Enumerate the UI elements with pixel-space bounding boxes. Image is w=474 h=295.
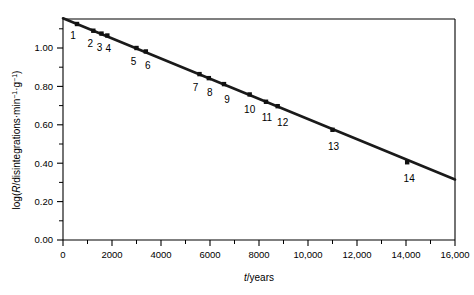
- y-tick-label: 0.60: [35, 119, 54, 130]
- data-series: 1234567891011121314: [63, 18, 455, 184]
- data-point: [99, 31, 103, 35]
- data-point-label: 11: [262, 112, 273, 123]
- y-axis-title-mid: ·g: [11, 82, 22, 91]
- y-axis-title-prefix: log(: [11, 192, 22, 209]
- data-point-label: 14: [404, 173, 416, 184]
- y-axis-title: log(R/disintegrations·min−1·g−1): [11, 71, 23, 210]
- data-point: [264, 100, 268, 104]
- data-point-label: 1: [70, 30, 76, 41]
- x-axis-major-ticks: [63, 240, 455, 246]
- data-point-label: 13: [328, 141, 340, 152]
- data-point-label: 8: [207, 87, 213, 98]
- y-axis-title-exponent-1: −1: [11, 91, 18, 99]
- data-point: [330, 128, 334, 132]
- x-tick-label: 0: [60, 249, 65, 260]
- x-tick-label: 10,000: [293, 249, 322, 260]
- x-axis-tick-labels: 0 2000 4000 6000 8000 10,000 12,000 14,0…: [60, 249, 469, 260]
- data-point-label: 12: [277, 117, 289, 128]
- plot-frame: [63, 19, 455, 240]
- y-axis-tick-labels: 0.00 0.20 0.40 0.60 0.80 1.00: [35, 42, 54, 245]
- data-point-label: 10: [244, 104, 256, 115]
- data-point: [207, 76, 211, 80]
- data-point: [75, 22, 79, 26]
- data-point: [247, 92, 251, 96]
- x-tick-label: 16,000: [440, 249, 469, 260]
- data-point: [275, 104, 279, 108]
- data-point-label: 7: [193, 82, 199, 93]
- y-axis-title-suffix: ): [11, 71, 22, 74]
- chart-figure: 0.00 0.20 0.40 0.60 0.80 1.00: [0, 0, 474, 295]
- x-axis-title-rest: /years: [247, 272, 274, 283]
- data-point-label: 5: [131, 56, 137, 67]
- x-axis-title: t/years: [244, 272, 274, 283]
- y-tick-label: 1.00: [35, 42, 54, 53]
- x-tick-label: 6000: [199, 249, 220, 260]
- x-tick-label: 2000: [101, 249, 122, 260]
- y-axis-title-exponent-2: −1: [11, 74, 18, 82]
- x-tick-label: 8000: [248, 249, 269, 260]
- data-point: [105, 33, 109, 37]
- data-point: [91, 29, 95, 33]
- data-point: [405, 160, 409, 164]
- data-point-label: 9: [224, 94, 230, 105]
- y-axis-title-variable: R: [11, 186, 22, 193]
- y-tick-label: 0.80: [35, 81, 54, 92]
- trend-line: [63, 18, 455, 179]
- x-tick-label: 12,000: [342, 249, 371, 260]
- y-tick-label: 0.00: [35, 234, 54, 245]
- data-point-label: 3: [97, 42, 103, 53]
- y-tick-label: 0.20: [35, 196, 54, 207]
- x-tick-label: 14,000: [391, 249, 420, 260]
- data-point: [134, 46, 138, 50]
- data-point-label: 6: [145, 60, 151, 71]
- data-point-label: 2: [88, 38, 94, 49]
- data-point: [144, 49, 148, 53]
- x-tick-label: 4000: [150, 249, 171, 260]
- y-axis-title-rest: /disintegrations·min: [11, 99, 22, 186]
- data-point: [197, 72, 201, 76]
- y-tick-label: 0.40: [35, 158, 54, 169]
- data-point-label: 4: [106, 43, 112, 54]
- decay-scatter-chart: 0.00 0.20 0.40 0.60 0.80 1.00: [0, 0, 474, 295]
- data-point: [222, 82, 226, 86]
